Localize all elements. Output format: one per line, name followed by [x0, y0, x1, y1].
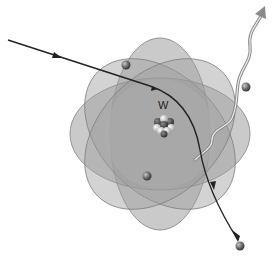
- bremsstrahlung-diagram: [0, 0, 272, 265]
- orbital-electron: [143, 172, 152, 181]
- orbital-electron: [122, 61, 131, 70]
- nucleus-label: W: [158, 99, 168, 111]
- direction-arrow-icon: [232, 230, 240, 242]
- orbital-electron: [242, 83, 251, 92]
- scattered-electron: [236, 242, 245, 251]
- direction-arrow-icon: [52, 52, 62, 58]
